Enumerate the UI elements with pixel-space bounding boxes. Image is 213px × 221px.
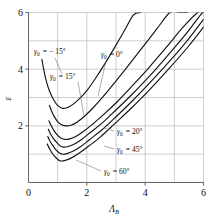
x-tick-label: 6 — [201, 187, 206, 198]
y-tick-label: 6 — [18, 7, 23, 18]
figure-container: 0246246 γ0 = − 15°γ0 = 0°γ0 = 15°γ0 = 20… — [0, 0, 213, 221]
y-tick-label: 2 — [18, 120, 23, 131]
curve-series-1 — [50, 11, 188, 126]
ann-gamma-neg15: γ0 = − 15° — [34, 47, 66, 57]
x-tick-label: 0 — [26, 187, 31, 198]
ann-gamma-20: γ0 = 20° — [117, 127, 143, 137]
ann-gamma-45: γ0 = 45° — [117, 145, 143, 155]
y-axis-label: ε — [3, 96, 13, 100]
curve-series-0 — [42, 13, 141, 109]
y-tick-label: 4 — [18, 64, 23, 75]
axes-layer — [25, 13, 203, 186]
ann-gamma-60: γ0 = 60° — [104, 167, 130, 177]
x-tick-label: 4 — [143, 187, 148, 198]
chart-svg: 0246246 γ0 = − 15°γ0 = 0°γ0 = 15°γ0 = 20… — [0, 0, 213, 221]
annotation-leader-line — [104, 146, 114, 149]
ann-gamma-0: γ0 = 0° — [101, 50, 123, 60]
ann-gamma-15: γ0 = 15° — [50, 72, 76, 82]
x-tick-label: 2 — [84, 187, 89, 198]
annotation-leader-line — [98, 61, 106, 96]
x-axis-label: ΛB — [108, 204, 119, 216]
annotation-leader-line — [76, 160, 101, 171]
curves-layer — [42, 11, 204, 161]
axis-labels-layer: ΛBε — [3, 96, 119, 215]
